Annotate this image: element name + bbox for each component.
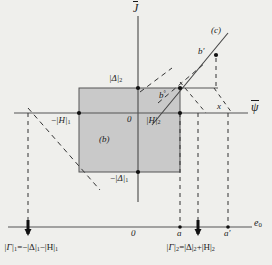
node-dot-h2: [178, 111, 182, 115]
bottom-tick-gamma1: [25, 220, 32, 236]
axis-label-j: J: [133, 2, 138, 14]
bottom-tick-gamma2: [195, 220, 202, 236]
label-b-prime: b′: [198, 47, 204, 56]
origin-label-upper: 0: [127, 115, 132, 124]
node-dot-b-prime: [214, 53, 218, 57]
label-a-prime: a′: [224, 229, 230, 238]
label-a: a: [177, 229, 182, 238]
formula-gamma1: |Γ|1=−|Δ|1−|H|1: [4, 243, 58, 252]
label-region-b: (b): [99, 135, 110, 144]
label-curve-c: (c): [211, 26, 221, 35]
label-neg-h1: −|H|1: [51, 116, 71, 125]
label-b-circ: b°: [159, 91, 166, 100]
axis-label-psi: ψ: [251, 101, 258, 113]
origin-label-lower: 0: [131, 229, 136, 238]
node-dot-delta2-top: [136, 86, 140, 90]
formula-gamma2: |Γ|2=|Δ|2+|H|2: [166, 243, 215, 252]
label-neg-delta1: −|Δ|1: [110, 174, 128, 183]
label-x: x: [217, 102, 221, 111]
node-dot-neg-h1: [77, 111, 81, 115]
figure-canvas: J ψ e0 0 0 |Δ|2 −|Δ|1 −|H|1 |H|2 (b) (c)…: [0, 0, 272, 265]
axis-label-e0: e0: [254, 218, 262, 229]
label-h2: |H|2: [146, 116, 161, 125]
curve-c-line: [152, 33, 228, 125]
label-delta2: |Δ|2: [109, 74, 122, 83]
node-dot-b-circ: [178, 86, 182, 90]
node-dot-neg-delta1-bottom: [136, 170, 140, 174]
region-b-rect: [79, 88, 180, 172]
diagram-vector-layer: [0, 0, 272, 265]
